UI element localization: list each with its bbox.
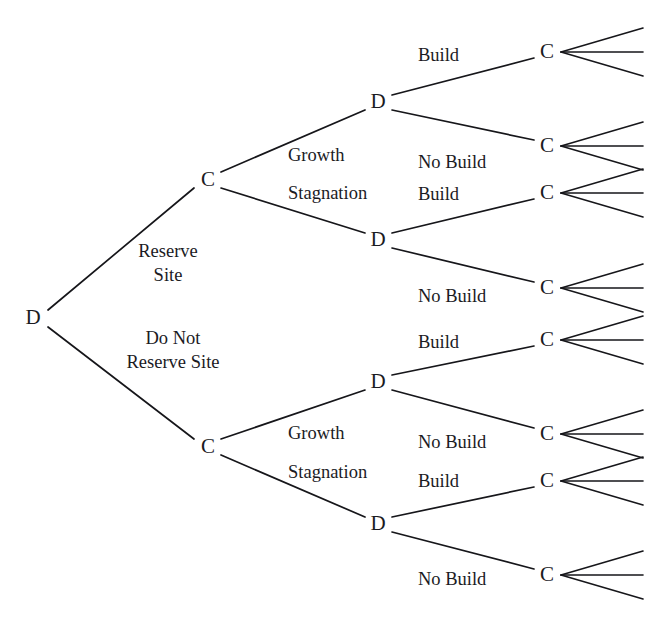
node-glyph-label: C	[540, 39, 554, 63]
chance-node-term-4[interactable]: C	[538, 275, 557, 299]
lbl-no-reserve-site-line-1: Do Not	[146, 328, 202, 348]
lbl-build-4-line-1: Build	[418, 471, 460, 491]
decision-node-d-3[interactable]: D	[369, 369, 388, 393]
decision-node-d-4[interactable]: D	[369, 511, 388, 535]
node-glyph-label: C	[540, 275, 554, 299]
chance-node-term-7[interactable]: C	[538, 468, 557, 492]
lbl-no-build-1: No Build	[418, 152, 487, 172]
chance-node-term-1[interactable]: C	[538, 39, 557, 63]
node-glyph-label: C	[540, 421, 554, 445]
lbl-no-build-4-line-1: No Build	[418, 569, 487, 589]
node-glyph-label: C	[201, 167, 215, 191]
decision-node-root[interactable]: D	[24, 305, 43, 329]
lbl-build-1-line-1: Build	[418, 45, 460, 65]
chance-node-term-6[interactable]: C	[538, 421, 557, 445]
lbl-build-4: Build	[418, 471, 460, 491]
lbl-stagnation-upper-line-1: Stagnation	[288, 183, 367, 203]
diagram-background	[0, 0, 659, 637]
lbl-build-2-line-1: Build	[418, 184, 460, 204]
lbl-no-build-2-line-1: No Build	[418, 286, 487, 306]
lbl-no-build-4: No Build	[418, 569, 487, 589]
lbl-stagnation-lower: Stagnation	[288, 462, 367, 482]
lbl-stagnation-lower-line-1: Stagnation	[288, 462, 367, 482]
node-glyph-label: D	[25, 305, 40, 329]
node-glyph-label: D	[370, 227, 385, 251]
node-glyph-label: C	[540, 133, 554, 157]
node-glyph-label: C	[201, 434, 215, 458]
lbl-build-1: Build	[418, 45, 460, 65]
node-glyph-label: D	[370, 511, 385, 535]
lbl-growth-upper: Growth	[288, 145, 345, 165]
lbl-build-3: Build	[418, 332, 460, 352]
lbl-no-build-1-line-1: No Build	[418, 152, 487, 172]
lbl-no-build-2: No Build	[418, 286, 487, 306]
lbl-stagnation-upper: Stagnation	[288, 183, 367, 203]
lbl-growth-lower-line-1: Growth	[288, 423, 345, 443]
decision-node-d-1[interactable]: D	[369, 89, 388, 113]
lbl-no-reserve-site-line-2: Reserve Site	[127, 352, 220, 372]
node-glyph-label: C	[540, 180, 554, 204]
lbl-growth-lower: Growth	[288, 423, 345, 443]
lbl-reserve-site-line-1: Reserve	[138, 241, 198, 261]
decision-node-d-2[interactable]: D	[369, 227, 388, 251]
lbl-build-2: Build	[418, 184, 460, 204]
node-glyph-label: C	[540, 468, 554, 492]
lbl-no-build-3-line-1: No Build	[418, 432, 487, 452]
chance-node-c-dn[interactable]: C	[199, 434, 218, 458]
lbl-growth-upper-line-1: Growth	[288, 145, 345, 165]
node-glyph-label: C	[540, 327, 554, 351]
chance-node-term-8[interactable]: C	[538, 562, 557, 586]
node-glyph-label: C	[540, 562, 554, 586]
chance-node-c-up[interactable]: C	[199, 167, 218, 191]
node-glyph-label: D	[370, 369, 385, 393]
chance-node-term-5[interactable]: C	[538, 327, 557, 351]
lbl-reserve-site-line-2: Site	[154, 265, 183, 285]
decision-tree-diagram: ReserveSiteDo NotReserve SiteGrowthStagn…	[0, 0, 659, 637]
chance-node-term-2[interactable]: C	[538, 133, 557, 157]
lbl-build-3-line-1: Build	[418, 332, 460, 352]
lbl-no-build-3: No Build	[418, 432, 487, 452]
node-glyph-label: D	[370, 89, 385, 113]
chance-node-term-3[interactable]: C	[538, 180, 557, 204]
